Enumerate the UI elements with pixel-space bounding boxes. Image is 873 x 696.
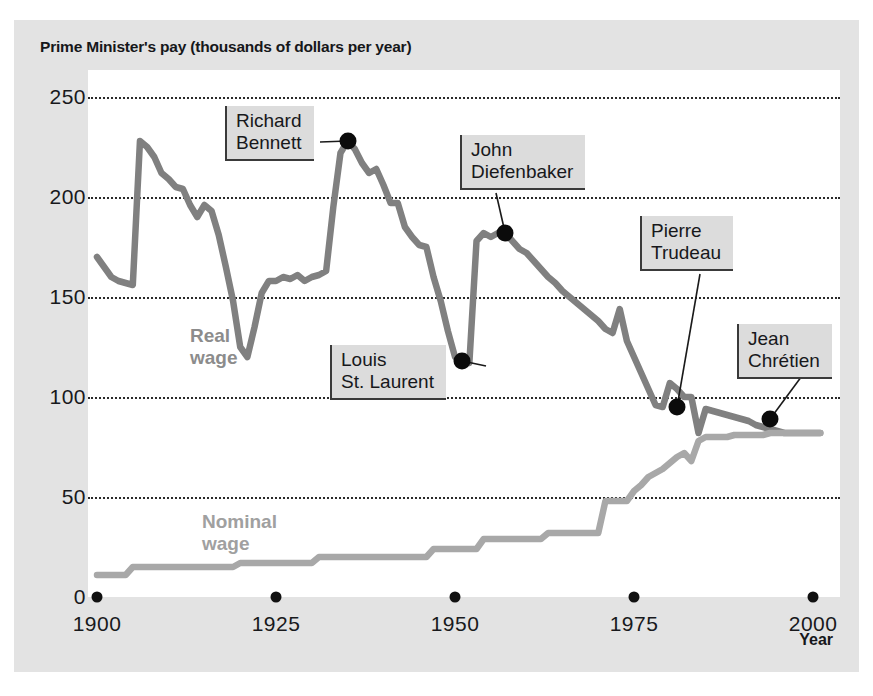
callout-trudeau-line2: Trudeau (651, 242, 721, 264)
y-tick-label-0: 0 (26, 585, 86, 609)
y-tick-label-100: 100 (26, 385, 86, 409)
plot-area: Real wage Nominal wage Richard Bennett L… (88, 70, 840, 597)
y-tick-label-150: 150 (26, 285, 86, 309)
x-tick-dot-1925 (271, 592, 282, 603)
marker-jean-chr-tien (762, 411, 779, 428)
chart-figure: Prime Minister's pay (thousands of dolla… (14, 20, 859, 672)
leader-line-pierre-trudeau (677, 274, 700, 407)
x-tick-dot-1950 (450, 592, 461, 603)
callout-louis-st-laurent: Louis St. Laurent (330, 345, 446, 400)
callout-bennett-line1: Richard (236, 110, 302, 132)
chart-title: Prime Minister's pay (thousands of dolla… (40, 38, 411, 56)
x-tick-dot-1900 (92, 592, 103, 603)
marker-john-diefenbaker (497, 225, 514, 242)
callout-chretien-line1: Jean (748, 328, 820, 350)
series-label-nominal-line1: Nominal (202, 511, 277, 533)
series-label-real-line1: Real (190, 325, 238, 347)
series-label-real-wage: Real wage (190, 325, 238, 370)
x-axis-title: Year (799, 631, 833, 649)
y-tick-label-50: 50 (26, 485, 86, 509)
x-tick-dot-2000 (808, 592, 819, 603)
marker-louis-st-laurent (454, 353, 471, 370)
y-tick-label-250: 250 (26, 85, 86, 109)
x-tick-label-1900: 1900 (73, 612, 122, 636)
callout-john-diefenbaker: John Diefenbaker (460, 135, 585, 190)
x-tick-label-1950: 1950 (431, 612, 480, 636)
x-tick-label-1975: 1975 (610, 612, 659, 636)
marker-pierre-trudeau (669, 399, 686, 416)
x-tick-label-1925: 1925 (252, 612, 301, 636)
callout-diefenbaker-line1: John (471, 139, 573, 161)
x-tick-dot-1975 (629, 592, 640, 603)
callout-stlaurent-line1: Louis (341, 349, 434, 371)
y-tick-label-200: 200 (26, 185, 86, 209)
callout-bennett-line2: Bennett (236, 132, 302, 154)
callout-chretien-line2: Chrétien (748, 350, 820, 372)
y-axis-tick-labels: 250200150100500 (14, 40, 86, 652)
series-label-real-line2: wage (190, 347, 238, 369)
series-label-nominal-line2: wage (202, 533, 277, 555)
callout-diefenbaker-line2: Diefenbaker (471, 161, 573, 183)
marker-richard-bennett (339, 133, 356, 150)
callout-pierre-trudeau: Pierre Trudeau (640, 216, 733, 271)
series-label-nominal-wage: Nominal wage (202, 511, 277, 556)
callout-trudeau-line1: Pierre (651, 220, 721, 242)
callout-richard-bennett: Richard Bennett (225, 106, 314, 161)
callout-stlaurent-line2: St. Laurent (341, 371, 434, 393)
callout-jean-chretien: Jean Chrétien (737, 324, 832, 379)
